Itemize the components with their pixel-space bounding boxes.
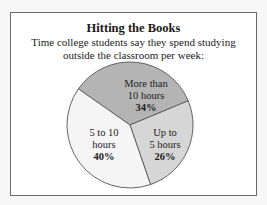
slice-1-value: 26%: [155, 151, 176, 162]
slice-1-label-line-1: Up to: [153, 127, 177, 138]
slice-0-label-line-1: More than: [124, 78, 168, 89]
pie-chart: More than 10 hours 34% Up to 5 hours 26%…: [0, 0, 267, 205]
slice-2-value: 40%: [94, 151, 115, 162]
slice-2-label-line-1: 5 to 10: [89, 127, 118, 138]
slice-0-label-line-2: 10 hours: [128, 90, 164, 101]
slice-0-value: 34%: [136, 102, 157, 113]
slice-2-label-line-2: hours: [92, 139, 115, 150]
slice-label-5-to-10: 5 to 10 hours 40%: [89, 127, 118, 162]
slice-1-label-line-2: 5 hours: [149, 139, 180, 150]
